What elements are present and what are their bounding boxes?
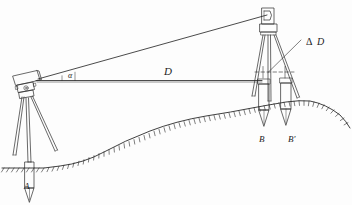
surveying-diagram: α D Δ D A B B' xyxy=(0,0,352,205)
label-station-b: B xyxy=(259,134,265,144)
label-slope-distance: D xyxy=(163,65,172,77)
leader-line-icon xyxy=(268,40,301,73)
prism-target-icon xyxy=(260,8,277,35)
diagram-canvas: α D Δ D A B B' xyxy=(0,0,352,205)
label-distance-correction-symbol: Δ xyxy=(306,36,313,47)
tripod-icon xyxy=(13,96,58,162)
offset-dashed-line-icon xyxy=(255,67,294,79)
label-station-a: A xyxy=(23,181,30,191)
label-distance-correction-variable: D xyxy=(316,36,325,47)
horizontal-reference-line-icon xyxy=(36,81,262,83)
label-vertical-angle: α xyxy=(68,71,73,80)
label-station-b-prime: B' xyxy=(288,134,296,144)
theodolite-icon xyxy=(13,71,42,99)
terrain-profile-icon xyxy=(2,101,351,172)
sight-line-icon xyxy=(38,15,267,79)
